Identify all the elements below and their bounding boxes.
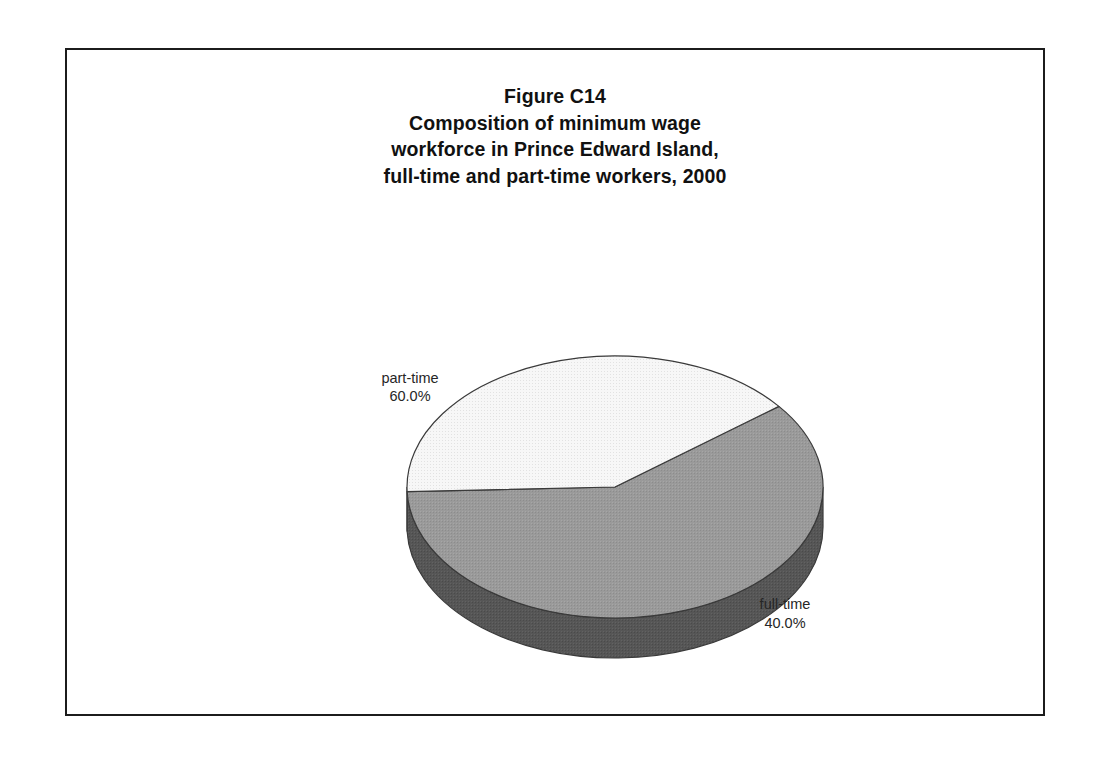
figure-border-frame: Figure C14 Composition of minimum wage w…: [65, 48, 1045, 716]
pie-chart: part-time 60.0% full-time 40.0%: [67, 50, 1047, 718]
part-time-label-value: 60.0%: [389, 388, 430, 404]
pie-geometry-group: [407, 356, 823, 658]
part-time-label-name: part-time: [381, 370, 438, 386]
full-time-label-value: 40.0%: [764, 615, 805, 631]
full-time-label-name: full-time: [760, 596, 811, 612]
slice-label-part-time: part-time 60.0%: [381, 370, 438, 404]
